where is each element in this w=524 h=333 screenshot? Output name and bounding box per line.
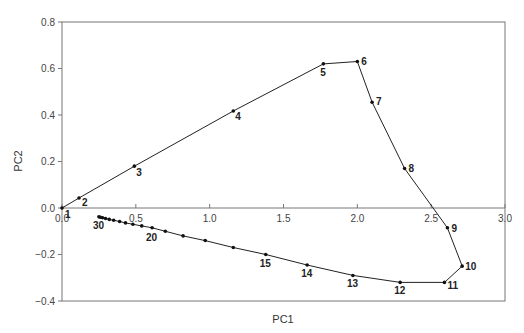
- point-label: 20: [146, 232, 158, 243]
- y-tick-label: 0.2: [41, 156, 55, 167]
- x-axis-label: PC1: [272, 313, 293, 325]
- point-label: 13: [347, 278, 359, 289]
- x-tick-label: 2.0: [350, 213, 364, 224]
- axis-ticks: 0.00.51.01.52.02.53.0−0.4−0.20.00.20.40.…: [35, 17, 512, 307]
- point-label: 11: [447, 280, 458, 291]
- data-point: [97, 215, 101, 219]
- data-point: [118, 220, 122, 224]
- point-label: 12: [394, 285, 406, 296]
- point-label: 30: [93, 220, 105, 231]
- point-label: 4: [235, 111, 241, 122]
- point-label: 15: [260, 258, 272, 269]
- data-point: [107, 218, 111, 222]
- trajectory-points: 1234567891011121314152030: [60, 56, 477, 297]
- y-tick-label: −0.4: [35, 296, 55, 307]
- point-label: 8: [409, 163, 415, 174]
- y-axis-label: PC2: [12, 150, 24, 171]
- data-point: [164, 229, 168, 233]
- x-tick-label: 1.5: [277, 213, 291, 224]
- point-label: 5: [320, 67, 326, 78]
- data-point: [460, 264, 464, 268]
- point-label: 6: [361, 56, 367, 67]
- x-tick-label: 3.0: [498, 213, 512, 224]
- data-point: [112, 219, 116, 223]
- data-point: [140, 224, 144, 228]
- data-point: [446, 226, 450, 230]
- trajectory-line: [62, 62, 462, 283]
- x-tick-label: 0.5: [129, 213, 143, 224]
- data-point: [60, 206, 64, 210]
- data-point: [351, 274, 355, 278]
- data-point: [181, 234, 185, 238]
- y-tick-label: 0.8: [41, 17, 55, 28]
- point-label: 7: [376, 96, 382, 107]
- point-label: 2: [82, 197, 88, 208]
- data-point: [77, 196, 81, 200]
- y-tick-label: −0.2: [35, 249, 55, 260]
- data-point: [264, 253, 268, 257]
- data-point: [322, 62, 326, 66]
- x-tick-label: 2.5: [424, 213, 438, 224]
- data-point: [370, 100, 374, 104]
- data-point: [305, 263, 309, 267]
- point-label: 9: [451, 223, 457, 234]
- x-tick-label: 1.0: [203, 213, 217, 224]
- data-point: [398, 281, 402, 285]
- y-tick-label: 0.4: [41, 110, 55, 121]
- data-point: [124, 221, 128, 225]
- point-label: 10: [465, 261, 477, 272]
- data-point: [356, 60, 360, 64]
- y-tick-label: 0.0: [41, 203, 55, 214]
- data-point: [203, 239, 207, 243]
- data-point: [403, 167, 407, 171]
- y-tick-label: 0.6: [41, 63, 55, 74]
- data-point: [231, 246, 235, 250]
- data-point: [131, 222, 135, 226]
- point-label: 14: [301, 268, 313, 279]
- point-label: 3: [136, 167, 142, 178]
- pca-trajectory-chart: 0.00.51.01.52.02.53.0−0.4−0.20.00.20.40.…: [0, 0, 524, 333]
- data-point: [150, 226, 154, 230]
- trajectory-path: [62, 62, 462, 283]
- point-label: 1: [65, 209, 71, 220]
- data-point: [443, 281, 447, 285]
